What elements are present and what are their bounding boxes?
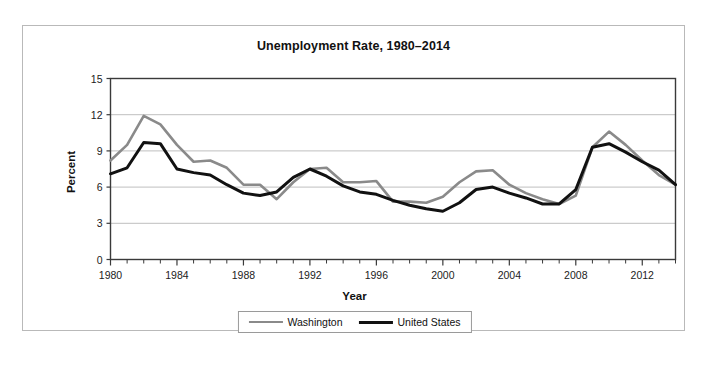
legend-line-washington-icon [248, 321, 282, 323]
plot-svg: 03691215 1980198419881992199620002004200… [23, 26, 686, 332]
x-axis-label: Year [23, 290, 686, 302]
legend-item-washington: Washington [248, 316, 342, 328]
data-series-layer [111, 116, 676, 211]
x-axis-tick-labels: 198019841988199219962000200420082012 [99, 269, 654, 281]
svg-text:1992: 1992 [298, 269, 322, 281]
plot-area: 03691215 1980198419881992199620002004200… [23, 26, 686, 332]
legend-label-washington: Washington [287, 316, 342, 328]
gridlines [111, 115, 676, 224]
svg-text:9: 9 [97, 145, 103, 157]
svg-text:1984: 1984 [165, 269, 189, 281]
chart-figure: Unemployment Rate, 1980–2014 03691215 19… [22, 25, 685, 331]
svg-text:1988: 1988 [232, 269, 256, 281]
plot-border [111, 79, 676, 260]
svg-text:12: 12 [91, 109, 103, 121]
svg-text:3: 3 [97, 217, 103, 229]
svg-text:0: 0 [97, 254, 103, 266]
svg-text:1996: 1996 [365, 269, 389, 281]
legend-item-united-states: United States [359, 316, 461, 328]
svg-text:2008: 2008 [564, 269, 588, 281]
svg-text:2012: 2012 [631, 269, 655, 281]
legend-label-united-states: United States [398, 316, 461, 328]
svg-text:6: 6 [97, 181, 103, 193]
legend-line-united-states-icon [359, 321, 393, 324]
x-minor-ticks [111, 260, 676, 266]
y-axis-label: Percent [65, 102, 77, 242]
svg-text:2004: 2004 [498, 269, 522, 281]
svg-text:15: 15 [91, 73, 103, 85]
y-axis-tick-labels: 03691215 [91, 73, 103, 266]
svg-text:2000: 2000 [431, 269, 455, 281]
chart-legend: Washington United States [237, 311, 471, 333]
svg-text:1980: 1980 [99, 269, 123, 281]
